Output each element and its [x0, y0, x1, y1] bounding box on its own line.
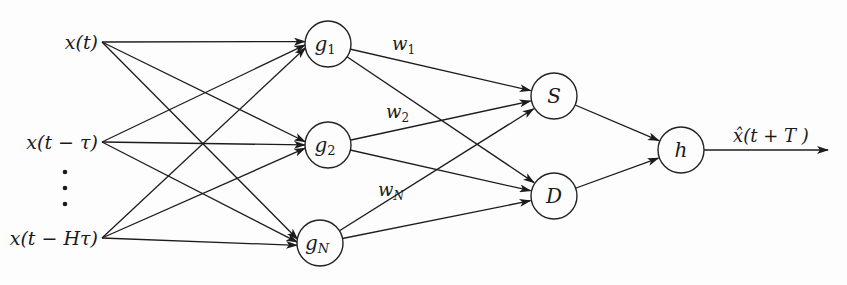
weight-label-wN: wN — [378, 179, 404, 203]
edges — [102, 42, 828, 246]
edge-in2-g2 — [102, 148, 305, 238]
output-label: x̂(t + T ) — [733, 125, 809, 146]
edge-gN-D — [320, 201, 530, 243]
edge-g2-D — [328, 145, 531, 191]
node-D-label: D — [545, 184, 562, 208]
node-S-label: S — [547, 84, 561, 108]
node-g2: g2 — [305, 122, 351, 168]
weight-label-w2: w2 — [386, 101, 409, 125]
edge-g1-D — [328, 44, 534, 183]
ellipsis-dot — [63, 186, 68, 191]
ellipsis-dot — [63, 202, 68, 207]
weight-label-w1: w1 — [392, 33, 415, 57]
node-h-label: h — [675, 138, 688, 162]
node-S: S — [531, 73, 577, 119]
node-g1: g1 — [305, 21, 351, 67]
neural-network-diagram: g1g2gNSDh x(t)x(t − τ)x(t − Hτ)w1w2wNx̂(… — [0, 0, 847, 285]
node-gN: gN — [297, 220, 343, 266]
edge-in1-gN — [102, 142, 297, 242]
edge-in2-gN — [102, 238, 297, 245]
diagram-svg: g1g2gNSDh x(t)x(t − τ)x(t − Hτ)w1w2wNx̂(… — [0, 0, 847, 285]
edge-g2-S — [328, 101, 531, 145]
ellipsis-dot — [63, 170, 68, 175]
nodes: g1g2gNSDh — [297, 21, 704, 266]
input-label-in1: x(t − τ) — [26, 131, 98, 153]
input-label-in2: x(t − Hτ) — [10, 227, 98, 249]
node-h: h — [658, 127, 704, 173]
edge-in0-gN — [102, 42, 298, 239]
node-D: D — [531, 173, 577, 219]
input-label-in0: x(t) — [65, 31, 98, 53]
edge-g1-S — [328, 44, 531, 91]
edge-gN-S — [320, 109, 534, 243]
